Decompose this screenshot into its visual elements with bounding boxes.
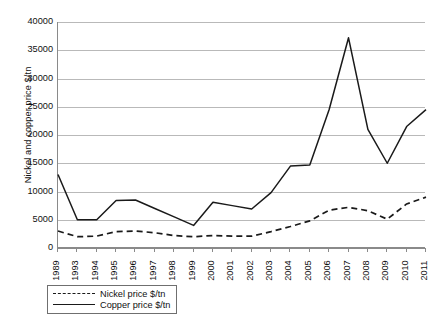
legend-label: Copper price $/tn <box>100 300 170 310</box>
y-tick-label: 5000 <box>5 215 53 224</box>
y-axis-tick-labels: 0500010000150002000025000300003500040000 <box>0 0 53 321</box>
legend-line-glyph <box>53 304 95 305</box>
series-lines <box>58 22 426 248</box>
x-tick-label: 2011 <box>420 251 429 291</box>
x-tick-label: 2008 <box>362 251 371 291</box>
y-tick-label: 40000 <box>5 17 53 26</box>
series-line-copper <box>58 38 426 226</box>
x-tick-label: 2007 <box>343 251 352 291</box>
plot-area <box>57 22 425 248</box>
y-tick-label: 0 <box>5 243 53 252</box>
y-tick-label: 35000 <box>5 45 53 54</box>
y-tick-label: 10000 <box>5 187 53 196</box>
x-tick-label: 2006 <box>324 251 333 291</box>
x-tick-label: 1999 <box>188 251 197 291</box>
y-tick-label: 25000 <box>5 102 53 111</box>
y-tick-label: 15000 <box>5 158 53 167</box>
x-tick-label: 2000 <box>207 251 216 291</box>
x-tick-label: 2002 <box>246 251 255 291</box>
y-tick-label: 20000 <box>5 130 53 139</box>
legend-swatch-solid <box>53 300 95 309</box>
legend-item: Copper price $/tn <box>53 299 170 310</box>
line-chart: Nickel and copper price $/tn 05000100001… <box>0 0 442 321</box>
x-tick-label: 2001 <box>227 251 236 291</box>
y-tick-label: 30000 <box>5 74 53 83</box>
chart-legend: Nickel price $/tnCopper price $/tn <box>47 285 177 314</box>
x-tick-label: 2004 <box>285 251 294 291</box>
x-tick-label: 2003 <box>265 251 274 291</box>
legend-label: Nickel price $/tn <box>100 289 165 299</box>
legend-line-glyph <box>53 293 95 294</box>
caption-fragment <box>108 312 408 321</box>
legend-swatch-dashed <box>53 289 95 298</box>
x-tick-label: 2009 <box>382 251 391 291</box>
legend-item: Nickel price $/tn <box>53 288 170 299</box>
x-tick-label: 2005 <box>304 251 313 291</box>
x-tick-label: 2010 <box>401 251 410 291</box>
